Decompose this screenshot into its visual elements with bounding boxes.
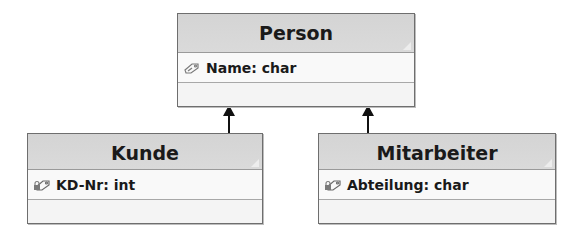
- operations-compartment: [28, 200, 262, 223]
- operations-compartment: [319, 200, 555, 223]
- attribute-row[interactable]: Abteilung: char: [324, 177, 469, 193]
- resize-corner-icon: [251, 159, 259, 167]
- attribute-row[interactable]: KD-Nr: int: [33, 177, 135, 193]
- class-name: Kunde: [111, 142, 179, 164]
- class-person-header[interactable]: Person: [178, 14, 414, 53]
- resize-corner-icon: [544, 159, 552, 167]
- class-kunde-header[interactable]: Kunde: [28, 134, 262, 170]
- private-attribute-icon: [324, 178, 342, 192]
- attribute-label: KD-Nr: int: [56, 177, 135, 193]
- generalization-kunde-person: [223, 105, 235, 133]
- class-kunde[interactable]: Kunde KD-Nr: int: [27, 133, 263, 224]
- attribute-label: Name: char: [206, 60, 296, 76]
- attributes-compartment: Abteilung: char: [319, 170, 555, 200]
- attribute-label: Abteilung: char: [347, 177, 469, 193]
- class-name: Person: [259, 22, 333, 44]
- attribute-row[interactable]: Name: char: [183, 60, 296, 76]
- generalization-mitarbeiter-person: [362, 105, 374, 133]
- resize-corner-icon: [403, 42, 411, 50]
- private-attribute-icon: [33, 178, 51, 192]
- attributes-compartment: KD-Nr: int: [28, 170, 262, 200]
- public-attribute-icon: [183, 61, 201, 75]
- class-mitarbeiter-header[interactable]: Mitarbeiter: [319, 134, 555, 170]
- operations-compartment: [178, 83, 414, 106]
- class-person[interactable]: Person Name: char: [177, 13, 415, 107]
- class-name: Mitarbeiter: [376, 142, 497, 164]
- attributes-compartment: Name: char: [178, 53, 414, 83]
- class-mitarbeiter[interactable]: Mitarbeiter Abteilung: char: [318, 133, 556, 224]
